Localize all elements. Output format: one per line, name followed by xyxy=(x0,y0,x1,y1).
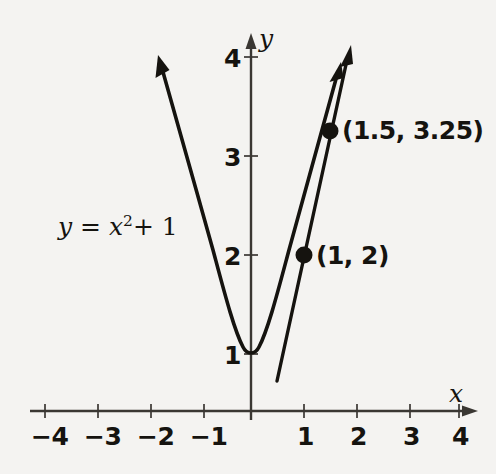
y-tick-label-3: 3 xyxy=(224,145,241,170)
data-point-1.5-3.25[interactable] xyxy=(322,123,339,140)
x-tick-label-1: 1 xyxy=(297,424,314,449)
x-tick-label--2: −2 xyxy=(137,424,174,449)
y-axis-arrow xyxy=(246,33,257,49)
x-tick-label--3: −3 xyxy=(84,424,121,449)
y-tick-label-2: 2 xyxy=(224,244,241,269)
equation-exponent: 2 xyxy=(123,212,133,230)
y-tick-label-1: 1 xyxy=(224,343,241,368)
x-axis-label: x xyxy=(449,381,463,406)
equation-constant: + 1 xyxy=(133,212,178,241)
x-tick-label--4: −4 xyxy=(31,424,68,449)
data-point-1-2[interactable] xyxy=(296,247,313,264)
curve-equation-label: y = x2+ 1 xyxy=(58,214,178,239)
equation-variable: x xyxy=(109,212,123,241)
x-tick-label-3: 3 xyxy=(403,424,420,449)
x-tick-label--1: −1 xyxy=(190,424,227,449)
y-axis xyxy=(246,33,257,420)
x-tick-label-4: 4 xyxy=(452,424,469,449)
secant-line-arrow xyxy=(340,45,353,67)
equation-equals: = xyxy=(80,212,101,241)
annotation-point-1.5-3.25: (1.5, 3.25) xyxy=(342,118,484,143)
y-axis-label: y xyxy=(259,26,273,51)
graph-figure: −4 −3 −2 −1 1 2 3 4 1 2 3 4 y x (1, 2) (… xyxy=(0,0,496,474)
annotation-point-1-2: (1, 2) xyxy=(316,243,389,268)
equation-lhs: y xyxy=(58,212,72,241)
y-tick-label-4: 4 xyxy=(224,46,241,71)
x-axis-arrow xyxy=(462,406,478,417)
x-tick-label-2: 2 xyxy=(350,424,367,449)
secant-line xyxy=(277,45,353,381)
